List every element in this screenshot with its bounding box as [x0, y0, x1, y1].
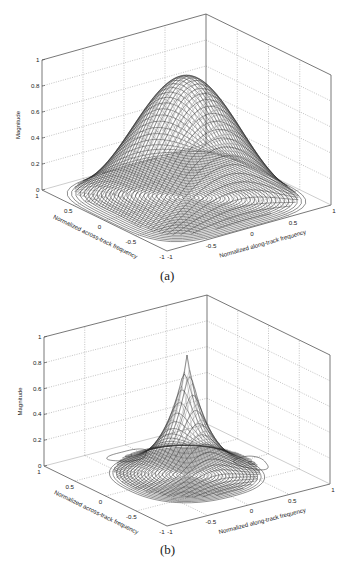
z-tick-label: 0.4	[33, 410, 42, 417]
z-tick	[42, 189, 45, 190]
y-tick-label: 0	[98, 223, 102, 230]
x-tick-label: -0.5	[206, 242, 217, 249]
x-tick-label: -0.5	[205, 518, 216, 525]
z-tick-label: 0.2	[33, 436, 42, 443]
z-tick	[44, 388, 47, 389]
x-tick-label: 0	[250, 230, 254, 237]
surface-plot-b: 00.20.40.60.81Magnitude10.50-0.5-1Normal…	[0, 280, 348, 570]
z-tick	[42, 85, 45, 86]
x-axis-label: Normalized along-track frequency	[218, 507, 306, 535]
y-tick-label: 1	[37, 468, 41, 475]
caption-b: (b)	[160, 542, 175, 558]
x-axis-label: Normalized along-track frequency	[219, 229, 307, 259]
y-tick-label: 0.5	[64, 207, 73, 214]
z-tick-label: 0.6	[33, 385, 42, 392]
z-tick-label: 0.8	[31, 82, 40, 89]
y-tick-label: -0.5	[125, 238, 136, 245]
surface-mesh-line	[129, 76, 243, 221]
y-tick-label: 1	[35, 192, 39, 199]
z-tick	[44, 362, 47, 363]
axis-box-top	[44, 295, 330, 484]
floor-contour	[165, 190, 208, 206]
z-tick-label: 0.2	[31, 160, 40, 167]
z-tick-label: 1	[38, 333, 42, 340]
z-tick	[44, 465, 47, 466]
x-tick-label: -1	[167, 253, 173, 260]
floor-contour	[152, 185, 220, 210]
floor-contour	[148, 183, 225, 211]
grid-line	[44, 321, 330, 381]
grid-line	[44, 372, 330, 432]
x-tick-label: 1	[332, 207, 336, 214]
z-tick	[44, 440, 47, 441]
figure-a: 00.20.40.60.81Magnitude10.50-0.5-1Normal…	[0, 0, 348, 285]
z-tick-label: 1	[36, 56, 40, 63]
x-tick-label: 0	[250, 507, 254, 514]
y-tick-label: -1	[159, 528, 165, 535]
grid-line	[42, 40, 331, 101]
surface-plot-a: 00.20.40.60.81Magnitude10.50-0.5-1Normal…	[0, 0, 348, 285]
surface-mesh-line	[155, 405, 241, 489]
z-tick-label: 0.8	[33, 359, 42, 366]
x-tick-label: -1	[167, 528, 173, 535]
z-tick	[42, 163, 45, 164]
z-tick-label: 0.6	[31, 108, 40, 115]
z-tick-label: 0.4	[31, 134, 40, 141]
z-axis-label: Magnitude	[17, 387, 23, 416]
floor-contour	[123, 174, 251, 221]
z-tick	[42, 111, 45, 112]
x-tick-label: 0.5	[289, 219, 298, 226]
y-tick-label: -0.5	[126, 513, 137, 520]
floor-contour	[89, 161, 285, 233]
figure-b: 00.20.40.60.81Magnitude10.50-0.5-1Normal…	[0, 280, 348, 570]
z-tick	[42, 137, 45, 138]
y-tick-label: 0.5	[65, 483, 74, 490]
y-tick-label: 0	[99, 498, 103, 505]
surface-mesh-line	[75, 139, 212, 191]
z-tick	[44, 414, 47, 415]
x-tick-label: 0.5	[288, 497, 297, 504]
z-axis-label: Magnitude	[15, 110, 21, 139]
y-tick-label: -1	[159, 253, 165, 260]
x-tick-label: 1	[331, 486, 335, 493]
